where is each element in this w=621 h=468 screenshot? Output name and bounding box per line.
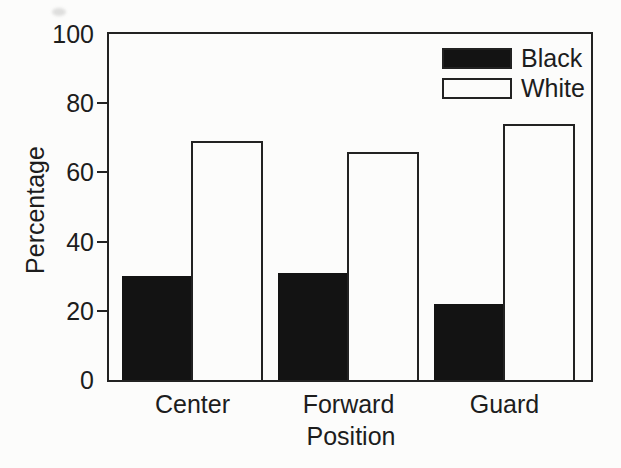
- x-category-label-center: Center: [123, 389, 263, 419]
- legend-swatch-black: [442, 48, 512, 69]
- scan-artifact: [52, 8, 66, 16]
- bar-center-white: [191, 141, 263, 380]
- y-tick-mark-20: [97, 310, 107, 312]
- y-tick-label-0: 0: [24, 366, 94, 394]
- y-tick-mark-60: [97, 171, 107, 173]
- legend-item-white: White: [442, 77, 585, 99]
- legend-label-white: White: [521, 77, 585, 99]
- y-tick-label-40: 40: [24, 228, 94, 256]
- plot-area: Black White: [107, 32, 593, 382]
- legend-swatch-white: [442, 78, 512, 99]
- y-tick-label-20: 20: [24, 297, 94, 325]
- bar-guard-black: [434, 304, 503, 380]
- x-category-label-forward: Forward: [279, 389, 419, 419]
- y-tick-label-60: 60: [24, 158, 94, 186]
- y-tick-mark-40: [97, 241, 107, 243]
- legend-item-black: Black: [442, 47, 585, 69]
- bar-chart-figure: Black White Percentage Position 02040608…: [0, 0, 621, 468]
- bar-forward-black: [278, 273, 347, 380]
- bar-guard-white: [503, 124, 575, 380]
- y-tick-label-80: 80: [24, 89, 94, 117]
- bar-center-black: [122, 276, 191, 380]
- x-category-label-guard: Guard: [435, 389, 575, 419]
- x-axis-title: Position: [281, 421, 421, 451]
- legend-label-black: Black: [521, 47, 582, 69]
- legend: Black White: [442, 47, 585, 99]
- y-tick-mark-80: [97, 102, 107, 104]
- bar-forward-white: [347, 152, 419, 380]
- y-tick-label-100: 100: [24, 20, 94, 48]
